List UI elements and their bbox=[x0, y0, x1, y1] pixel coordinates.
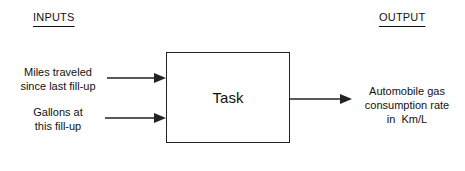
arrow-input-miles bbox=[107, 73, 166, 83]
arrow-output bbox=[290, 94, 352, 104]
output-label: Automobile gas consumption rate in Km/L bbox=[352, 84, 462, 126]
output-label-line2: consumption rate bbox=[352, 98, 462, 112]
arrow-input-gallons bbox=[105, 113, 166, 123]
output-label-line1: Automobile gas bbox=[352, 84, 462, 98]
output-label-line3: in Km/L bbox=[352, 112, 462, 126]
